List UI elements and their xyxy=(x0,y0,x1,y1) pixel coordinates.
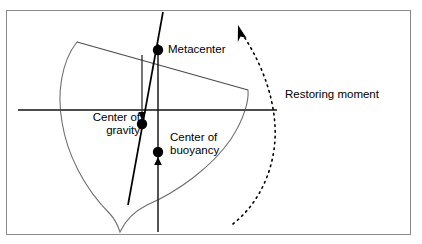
center-of-gravity-label-line2: gravity xyxy=(106,124,140,136)
center-of-buoyancy-label-line1: Center of xyxy=(170,131,217,143)
metacenter-label: Metacenter xyxy=(168,43,226,56)
figure-container: Metacenter Center ofgravity Center ofbuo… xyxy=(0,0,422,244)
metacenter-dot xyxy=(153,45,163,55)
restoring-moment-label: Restoring moment xyxy=(285,88,379,101)
center-of-gravity-label-line1: Center of xyxy=(93,111,140,123)
center-of-gravity-label: Center ofgravity xyxy=(56,111,140,137)
center-of-buoyancy-label: Center ofbuoyancy xyxy=(170,131,219,157)
center-of-buoyancy-label-line2: buoyancy xyxy=(170,144,219,156)
center-of-buoyancy-dot xyxy=(153,147,163,157)
